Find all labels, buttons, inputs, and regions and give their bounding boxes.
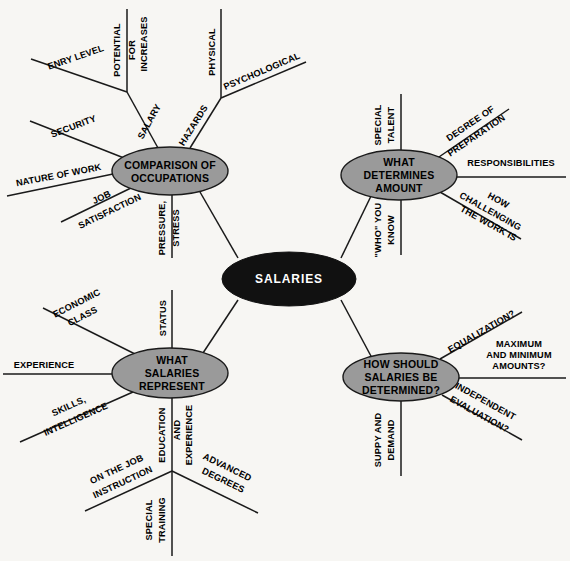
label-degree-of-preparation: DEGREE OF PREPARATION [445, 104, 508, 159]
label-job-text: JOB [91, 188, 113, 206]
label-physical: PHYSICAL [207, 28, 217, 76]
label-psychological-text: PSYCHOLOGICAL [222, 51, 302, 92]
label-and-minimum-text: AND MINIMUM [486, 350, 552, 360]
label-education-text: EDUCATION [157, 407, 167, 462]
label-experience: EXPERIENCE [14, 360, 75, 370]
label-responsibilities: RESPONSIBILITIES [467, 158, 555, 168]
label-special-training: SPECIAL TRAINING [144, 497, 167, 543]
node-label-represent-line2: SALARIES [145, 367, 200, 379]
node-what-salaries-represent[interactable]: WHAT SALARIES REPRESENT [112, 348, 228, 398]
label-maximum-and-minimum-amounts: MAXIMUM AND MINIMUM AMOUNTS? [486, 339, 552, 371]
label-physical-text: PHYSICAL [207, 28, 217, 76]
label-maximum-text: MAXIMUM [496, 339, 542, 349]
label-education-and-experience: EDUCATION AND EXPERIENCE [157, 405, 194, 466]
label-pressure-stress: PRESSURE, STRESS [157, 201, 181, 255]
node-comparison-of-occupations[interactable]: COMPARISON OF OCCUPATIONS [112, 147, 228, 195]
label-who-you-text: "WHO" YOU [373, 202, 383, 257]
label-nature-of-work: NATURE OF WORK [15, 162, 102, 188]
label-skills-intelligence: SKILLS, INTELLIGENCE [42, 394, 109, 438]
mind-map-canvas: COMPARISON OF OCCUPATIONS WHAT DETERMINE… [0, 0, 570, 561]
label-how-challenging-the-work-is: HOW CHALLENGING THE WORK IS [458, 190, 523, 243]
label-demand-text: DEMAND [386, 419, 396, 460]
label-special-training-1: SPECIAL [144, 499, 154, 540]
label-nature-of-work-text: NATURE OF WORK [15, 162, 102, 188]
node-label-comparison-line2: OCCUPATIONS [131, 172, 209, 184]
label-hazards: HAZARDS [177, 103, 210, 147]
label-supply-and-demand: SUPPY AND DEMAND [373, 413, 396, 468]
label-who-you-know: "WHO" YOU KNOW [373, 202, 396, 257]
label-security: SECURITY [49, 113, 97, 139]
label-psychological: PSYCHOLOGICAL [222, 51, 302, 92]
node-label-determines-line3: AMOUNT [375, 182, 423, 194]
node-label-root-salaries: SALARIES [255, 272, 323, 286]
label-know-text: KNOW [386, 215, 396, 245]
label-security-text: SECURITY [49, 113, 97, 139]
node-label-howshould-line3: DETERMINED? [362, 384, 440, 396]
branch-what-salaries-represent-lines [3, 290, 258, 556]
label-increases-text: INCREASES [139, 17, 149, 72]
label-independent-evaluation: INDEPENDENT EVALUATION? [448, 381, 517, 435]
label-potential-text: POTENTIAL [112, 23, 122, 77]
label-economic-class: ECONOMIC CLASS [51, 287, 102, 328]
node-label-determines-line1: WHAT [383, 156, 415, 168]
node-label-represent-line1: WHAT [156, 354, 188, 366]
node-label-howshould-line1: HOW SHOULD [364, 358, 439, 370]
label-and-text: AND [172, 420, 182, 441]
node-label-represent-line3: REPRESENT [139, 380, 205, 392]
label-experience-text: EXPERIENCE [14, 360, 75, 370]
label-experience2-text: EXPERIENCE [184, 405, 194, 466]
connector-root-to-comparison [200, 192, 238, 258]
label-entry-level-text: ENRY LEVEL [46, 43, 105, 72]
label-special-talent: SPECIAL TALENT [373, 104, 396, 145]
node-label-howshould-line2: SALARIES BE [365, 371, 438, 383]
connector-root-to-howshould [341, 300, 372, 358]
node-root-salaries[interactable]: SALARIES [222, 252, 356, 306]
node-label-comparison-line1: COMPARISON OF [124, 159, 216, 171]
node-label-determines-line2: DETERMINES [364, 169, 435, 181]
label-on-the-job-instruction: ON THE JOB INSTRUCTION [88, 452, 154, 500]
label-potential-for-increases: POTENTIAL FOR INCREASES [112, 17, 149, 77]
node-how-should-salaries-be-determined[interactable]: HOW SHOULD SALARIES BE DETERMINED? [343, 353, 459, 401]
label-supply-and-text: SUPPY AND [373, 413, 383, 468]
label-salary-text: SALARY [136, 102, 163, 140]
connector-root-to-determines [341, 194, 372, 258]
label-amounts-text: AMOUNTS? [492, 361, 545, 371]
node-what-determines-amount[interactable]: WHAT DETERMINES AMOUNT [341, 150, 457, 200]
label-status: STATUS [158, 300, 168, 336]
label-stress-text: STRESS [171, 209, 181, 247]
label-responsibilities-text: RESPONSIBILITIES [467, 158, 555, 168]
label-hazards-text: HAZARDS [177, 103, 210, 147]
label-salary: SALARY [136, 102, 163, 140]
label-pressure-text: PRESSURE, [157, 201, 167, 255]
label-for-text: FOR [127, 40, 137, 60]
label-talent-text: TALENT [386, 107, 396, 144]
label-special-training-2: TRAINING [157, 497, 167, 543]
label-special-text: SPECIAL [373, 104, 383, 145]
connector-root-to-represent [203, 300, 238, 353]
label-entry-level: ENRY LEVEL [46, 43, 105, 72]
label-status-text: STATUS [158, 300, 168, 336]
